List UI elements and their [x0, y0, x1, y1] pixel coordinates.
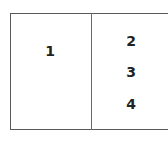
right-panel-item-label: 2 [126, 34, 136, 48]
right-panel-item-label: 3 [126, 65, 136, 79]
layout-frame [10, 13, 168, 130]
right-panel-item-label: 4 [126, 97, 136, 111]
panel-divider [91, 13, 92, 130]
left-panel-label: 1 [45, 44, 55, 58]
